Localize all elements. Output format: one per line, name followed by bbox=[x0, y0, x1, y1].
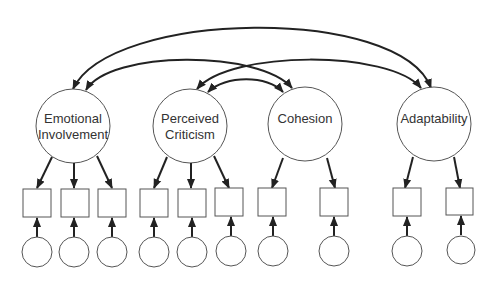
covariance-ei-cohesion bbox=[86, 60, 292, 90]
latent-adaptability: Adaptability bbox=[397, 87, 471, 161]
indicator-coh-1 bbox=[258, 188, 286, 216]
latent-perceived-criticism: Perceived Criticism bbox=[153, 89, 227, 163]
indicator-pc-1 bbox=[140, 189, 168, 217]
covariance-pc-adaptability bbox=[197, 60, 421, 89]
factor-label: Emotional bbox=[44, 111, 102, 126]
covariance-pc-cohesion bbox=[208, 79, 283, 92]
indicator-adapt-1 bbox=[393, 188, 421, 216]
error-pc-1 bbox=[139, 237, 169, 267]
error-coh-1 bbox=[258, 236, 288, 266]
error-pc-2 bbox=[177, 237, 207, 267]
error-paths bbox=[37, 216, 461, 237]
factor-label: Adaptability bbox=[400, 111, 468, 126]
latent-emotional-involvement: Emotional Involvement bbox=[36, 89, 110, 163]
error-adapt-1 bbox=[392, 236, 422, 266]
error-ei-1 bbox=[22, 237, 52, 267]
indicator-ei-1 bbox=[23, 189, 51, 217]
sem-diagram: Emotional Involvement Perceived Criticis… bbox=[0, 0, 496, 285]
loadings bbox=[37, 156, 460, 188]
factor-label: Involvement bbox=[38, 127, 108, 142]
factor-label: Perceived bbox=[161, 111, 219, 126]
error-ei-3 bbox=[97, 237, 127, 267]
factor-label: Cohesion bbox=[278, 111, 333, 126]
error-adapt-2 bbox=[447, 236, 475, 264]
indicator-pc-2 bbox=[178, 189, 206, 217]
indicator-ei-3 bbox=[98, 189, 126, 217]
latent-cohesion: Cohesion bbox=[268, 87, 342, 161]
indicator-adapt-2 bbox=[446, 188, 473, 215]
error-ei-2 bbox=[59, 237, 89, 267]
factor-label: Criticism bbox=[165, 127, 215, 142]
error-coh-2 bbox=[319, 236, 349, 266]
indicator-coh-2 bbox=[320, 188, 348, 216]
indicator-ei-2 bbox=[61, 189, 89, 217]
error-pc-3 bbox=[216, 236, 246, 266]
error-terms bbox=[22, 236, 475, 267]
indicators bbox=[23, 188, 473, 217]
indicator-pc-3 bbox=[215, 188, 243, 216]
